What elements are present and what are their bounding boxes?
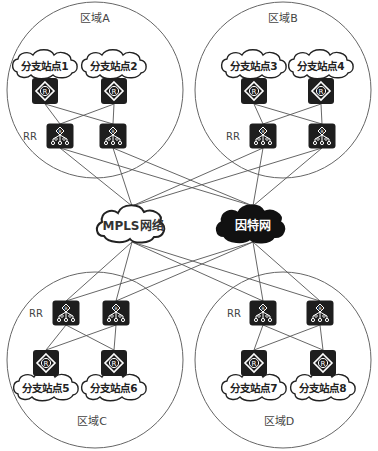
branch-site: 分支站点5R — [14, 350, 79, 401]
rr-label: RR — [23, 131, 37, 142]
rr-label: RR — [226, 131, 240, 142]
router-glyph-letter: R — [43, 88, 48, 96]
site-rr-link — [320, 325, 323, 350]
rr-glyph-letter: R — [261, 306, 264, 311]
branch-site: 分支站点7R — [222, 350, 287, 401]
branch-site: 分支站点8R — [291, 350, 356, 401]
route-reflector-icon — [103, 301, 130, 326]
branch-site: 分支站点1R — [13, 50, 78, 104]
router-glyph-letter: R — [112, 88, 117, 96]
site-label: 分支站点1 — [21, 60, 68, 72]
router-glyph-letter: R — [252, 360, 257, 368]
site-rr-link — [263, 325, 323, 350]
route-reflector-icon — [250, 124, 277, 149]
rr-network-link — [66, 242, 132, 301]
branch-site: 分支站点2R — [82, 50, 147, 104]
site-rr-link — [45, 104, 60, 124]
router-glyph-letter: R — [321, 360, 326, 368]
internet-label: 因特网 — [235, 218, 271, 233]
rr-network-link — [116, 242, 253, 301]
region-label: 区域A — [80, 12, 110, 25]
rr-network-link — [113, 148, 132, 206]
rr-network-link — [253, 148, 322, 206]
rr-glyph-letter: R — [318, 306, 321, 311]
site-rr-link — [254, 325, 320, 350]
route-reflector-icon — [53, 301, 80, 326]
rr-glyph-letter: R — [261, 129, 264, 134]
router-glyph-letter: R — [252, 88, 257, 96]
route-reflector-icon — [47, 124, 74, 149]
rr-network-link — [60, 148, 132, 206]
rr-network-link — [253, 148, 263, 206]
internet-cloud: 因特网 — [217, 205, 284, 242]
network-topology-diagram: MPLS网络 因特网 区域A分支站点1R分支站点2RRRRR区域B分支站点3R分… — [0, 0, 378, 451]
site-rr-link — [45, 104, 113, 124]
branch-site: 分支站点6R — [82, 350, 147, 401]
site-label: 分支站点3 — [230, 60, 277, 72]
site-label: 分支站点7 — [230, 382, 277, 394]
branch-site: 分支站点3R — [222, 50, 287, 104]
router-glyph-letter: R — [319, 88, 324, 96]
site-rr-link — [114, 325, 116, 350]
site-rr-link — [60, 104, 114, 124]
region-label: 区域D — [264, 415, 294, 428]
site-rr-link — [321, 104, 322, 124]
mpls-network-cloud: MPLS网络 — [97, 205, 164, 242]
rr-label: RR — [29, 308, 43, 319]
site-label: 分支站点4 — [297, 60, 344, 72]
mpls-network-label: MPLS网络 — [102, 218, 163, 233]
rr-network-link — [116, 242, 132, 301]
site-rr-link — [254, 104, 263, 124]
router-glyph-letter: R — [112, 360, 117, 368]
rr-glyph-letter: R — [111, 129, 114, 134]
route-reflector-icon — [250, 301, 277, 326]
rr-glyph-letter: R — [64, 306, 67, 311]
rr-network-link — [253, 242, 263, 301]
site-rr-link — [113, 104, 114, 124]
rr-glyph-letter: R — [114, 306, 117, 311]
region-label: 区域C — [77, 415, 107, 428]
region-b-boundary — [195, 2, 371, 178]
route-reflector-icon — [309, 124, 336, 149]
site-label: 分支站点2 — [90, 60, 137, 72]
region-label: 区域B — [268, 12, 298, 25]
rr-glyph-letter: R — [58, 129, 61, 134]
rr-glyph-letter: R — [320, 129, 323, 134]
rr-label: RR — [227, 308, 241, 319]
route-reflector-icon — [100, 124, 127, 149]
rr-network-link — [253, 242, 320, 301]
rr-network-link — [113, 148, 253, 206]
site-label: 分支站点5 — [22, 382, 69, 394]
route-reflector-icon — [307, 301, 334, 326]
rr-network-link — [60, 148, 253, 206]
site-label: 分支站点6 — [90, 382, 137, 394]
site-rr-link — [254, 325, 263, 350]
branch-site: 分支站点4R — [289, 50, 354, 104]
router-glyph-letter: R — [44, 360, 49, 368]
site-label: 分支站点8 — [299, 382, 346, 394]
